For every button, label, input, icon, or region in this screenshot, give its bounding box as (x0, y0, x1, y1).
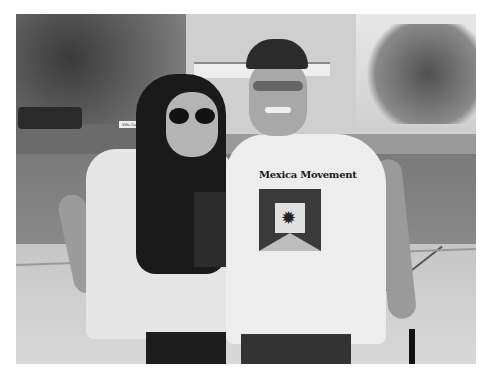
shirt-text: Mexica Movement (259, 169, 357, 180)
man: Mexica Movement ✹ (221, 39, 421, 364)
cane (409, 329, 415, 364)
sunglasses-icon (169, 108, 215, 124)
woman (66, 74, 236, 364)
sun-glyph-icon: ✹ (281, 208, 296, 228)
man-face (249, 61, 307, 136)
baseball-cap (246, 39, 308, 69)
glasses-icon (253, 81, 303, 91)
woman-pants (146, 332, 226, 364)
mustache (265, 107, 291, 113)
image-description: Black and white photograph of a smiling … (0, 0, 1, 1)
woman-face (166, 92, 218, 157)
man-pants (241, 334, 351, 364)
emblem-icon: ✹ (259, 189, 321, 251)
photograph: Villa Carrer Mexica Movement ✹ (16, 14, 476, 364)
